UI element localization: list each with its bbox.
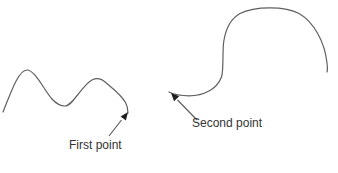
first-point-arrow-line bbox=[109, 120, 122, 136]
first-point-arrowhead-icon bbox=[121, 112, 128, 121]
second-curve bbox=[169, 8, 327, 96]
first-point-annotation-arrow bbox=[109, 112, 128, 136]
curves-drawing bbox=[0, 0, 338, 173]
first-curve bbox=[3, 70, 128, 113]
first-point-label: First point bbox=[69, 138, 122, 152]
sketch-canvas: First point Second point bbox=[0, 0, 338, 173]
second-point-label: Second point bbox=[192, 116, 262, 130]
